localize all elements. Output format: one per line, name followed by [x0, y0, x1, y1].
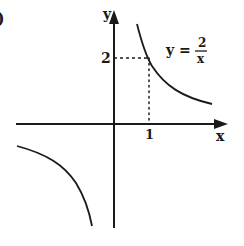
- x-axis: [16, 119, 228, 129]
- x-tick-label: 1: [145, 127, 154, 142]
- curve-branch-negative: [17, 146, 92, 226]
- equation-denominator: x: [197, 52, 205, 66]
- y-axis: [109, 10, 119, 228]
- y-tick-label: 2: [101, 50, 111, 66]
- reciprocal-function-graph: ) y x 1 2 y = 2 x: [0, 0, 244, 246]
- equation-lhs: y =: [165, 42, 191, 58]
- x-axis-label: x: [216, 128, 225, 144]
- part-marker: ): [0, 9, 5, 28]
- equation-numerator: 2: [198, 36, 206, 50]
- equation-label: y = 2 x: [165, 36, 207, 66]
- y-axis-label: y: [102, 6, 112, 22]
